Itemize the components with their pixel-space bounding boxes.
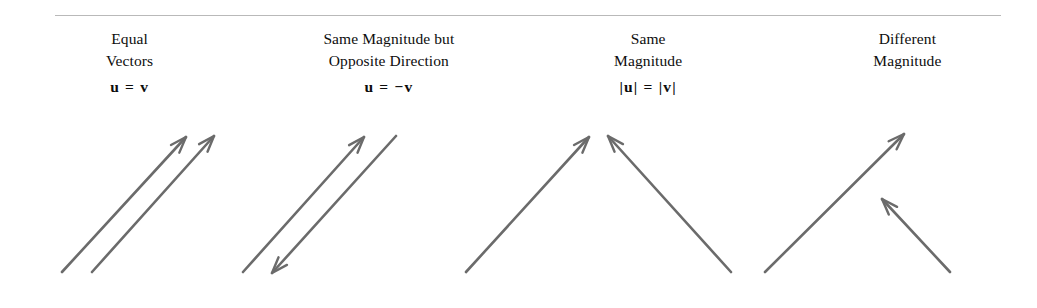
different-magnitude-diagram	[765, 134, 950, 272]
column-title: Same Magnitude	[614, 28, 682, 72]
column-formula: u = −v	[364, 78, 413, 96]
column-different-magnitude: Different Magnitude	[778, 28, 1037, 114]
opposite-direction-diagram	[243, 136, 396, 273]
column-title: Equal Vectors	[106, 28, 153, 72]
column-opposite-direction: Same Magnitude but Opposite Direction u …	[259, 28, 518, 114]
arrow-head-icon	[882, 199, 897, 215]
arrow-shaft	[765, 134, 904, 272]
arrow-vector-u	[62, 137, 186, 272]
arrow-vector-v	[92, 136, 214, 272]
equal-vectors-diagram	[62, 136, 214, 272]
arrow-vector-u	[765, 134, 904, 272]
column-title: Same Magnitude but Opposite Direction	[323, 28, 454, 72]
arrow-shaft	[243, 137, 364, 272]
column-title: Different Magnitude	[873, 28, 941, 72]
column-formula: u = v	[110, 78, 149, 96]
arrow-head-icon	[199, 136, 214, 152]
arrow-vector-u	[243, 137, 364, 272]
column-headers: Equal Vectors u = v Same Magnitude but O…	[0, 28, 1037, 114]
same-magnitude-diagram	[466, 136, 731, 272]
column-same-magnitude: Same Magnitude |u| = |v|	[519, 28, 778, 114]
arrow-vector-v	[608, 136, 731, 272]
arrow-shaft	[608, 136, 731, 272]
arrow-shaft	[92, 136, 214, 272]
arrow-head-icon	[574, 137, 589, 153]
arrow-vector-u	[466, 137, 589, 272]
top-divider-rule	[55, 15, 1001, 16]
arrow-head-icon	[171, 137, 186, 153]
arrow-vector-v	[882, 199, 950, 272]
arrow-head-icon	[608, 136, 623, 152]
arrow-head-icon	[272, 257, 287, 273]
arrow-shaft	[466, 137, 589, 272]
arrow-vector-negative-v	[272, 136, 396, 273]
arrow-shaft	[882, 199, 950, 272]
column-equal-vectors: Equal Vectors u = v	[0, 28, 259, 114]
arrow-head-icon	[889, 134, 904, 149]
vector-comparison-figure: Equal Vectors u = v Same Magnitude but O…	[0, 0, 1037, 308]
column-formula: |u| = |v|	[619, 78, 676, 96]
arrow-shaft	[62, 137, 186, 272]
arrow-head-icon	[349, 137, 364, 153]
arrow-shaft	[272, 136, 396, 273]
